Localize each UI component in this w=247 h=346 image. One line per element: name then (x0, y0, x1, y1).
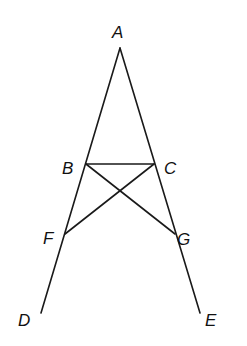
point-label-c: C (164, 159, 177, 178)
labels: A B C F G D E (18, 23, 217, 330)
point-label-e: E (205, 311, 217, 330)
point-label-g: G (177, 230, 190, 249)
segment-bg (86, 164, 175, 234)
segment-cf (65, 164, 154, 234)
point-label-f: F (43, 229, 55, 248)
point-label-a: A (111, 23, 123, 42)
point-label-d: D (18, 311, 30, 330)
segments (41, 48, 200, 313)
point-label-b: B (62, 159, 73, 178)
geometry-diagram: A B C F G D E (0, 0, 247, 346)
